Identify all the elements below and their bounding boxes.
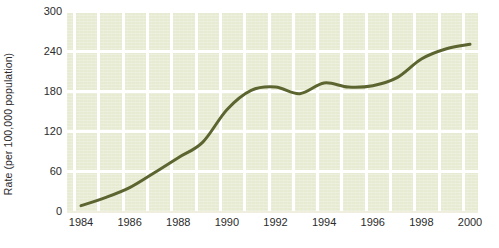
y-axis-tick-300: 300 <box>16 5 62 17</box>
x-axis-tick-2000: 2000 <box>458 216 482 228</box>
x-axis-tick-1986: 1986 <box>117 216 141 228</box>
x-axis-tick-1996: 1996 <box>361 216 385 228</box>
x-axis-tick-1994: 1994 <box>312 216 336 228</box>
x-axis-baseline <box>67 211 478 213</box>
y-axis-tick-120: 120 <box>16 125 62 137</box>
line-series-rate <box>81 44 470 205</box>
chart-container: Rate (per 100,000 population) 0601201802… <box>0 0 499 248</box>
y-axis-tick-labels: 060120180240300 <box>14 0 62 248</box>
x-axis-tick-1988: 1988 <box>166 216 190 228</box>
x-axis-tick-1992: 1992 <box>263 216 287 228</box>
y-axis-tick-180: 180 <box>16 85 62 97</box>
y-axis-tick-60: 60 <box>16 165 62 177</box>
plot-area <box>67 11 478 211</box>
x-axis-tick-1998: 1998 <box>409 216 433 228</box>
x-axis-tick-1990: 1990 <box>215 216 239 228</box>
y-axis-tick-240: 240 <box>16 45 62 57</box>
series-layer <box>67 11 478 211</box>
x-axis-tick-labels: 198419861988199019921994199619982000 <box>0 216 499 236</box>
x-axis-tick-1984: 1984 <box>69 216 93 228</box>
